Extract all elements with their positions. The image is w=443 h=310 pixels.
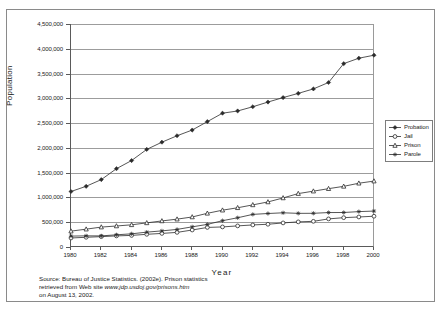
x-tick-label: 1986	[149, 252, 173, 258]
x-tick-mark	[312, 247, 313, 250]
y-tick-label: 500,000	[7, 219, 63, 225]
x-tick-label: 1994	[270, 252, 294, 258]
x-tick-mark	[282, 247, 283, 250]
legend-item-parole[interactable]: Parole	[388, 150, 430, 159]
legend-item-prison[interactable]: Prison	[388, 141, 430, 150]
legend-label: Jail	[404, 133, 413, 140]
x-tick-label: 1980	[58, 252, 82, 258]
source-note: Source: Bureau of Justice Statistics. (2…	[39, 275, 339, 300]
legend-marker-diamond-icon	[388, 123, 402, 132]
plot-area	[70, 24, 374, 247]
legend-marker-asterisk-icon	[388, 150, 402, 159]
y-tick-label: 3,500,000	[7, 71, 63, 77]
x-tick-label: 1988	[179, 252, 203, 258]
y-tick-label: 1,500,000	[7, 170, 63, 176]
x-tick-label: 1982	[88, 252, 112, 258]
chart-legend: ProbationJailPrisonParole	[385, 120, 433, 162]
legend-label: Parole	[404, 151, 421, 158]
source-line-2-prefix: retrieved from Web site	[39, 283, 105, 290]
x-tick-mark	[131, 247, 132, 250]
x-tick-label: 1996	[300, 252, 324, 258]
source-line-3: on August 13, 2002.	[39, 291, 339, 299]
legend-item-probation[interactable]: Probation	[388, 123, 430, 132]
x-tick-mark	[343, 247, 344, 250]
series-probation	[69, 53, 376, 193]
y-tick-label: 1,000,000	[7, 194, 63, 200]
y-tick-label: 3,000,000	[7, 95, 63, 101]
x-tick-label: 1990	[210, 252, 234, 258]
legend-label: Probation	[404, 124, 429, 131]
x-tick-mark	[373, 247, 374, 250]
y-tick-label: 2,000,000	[7, 145, 63, 151]
y-tick-label: 0	[7, 244, 63, 250]
y-tick-label: 4,500,000	[7, 21, 63, 27]
series-parole	[69, 209, 376, 238]
x-tick-mark	[222, 247, 223, 250]
x-tick-label: 1992	[240, 252, 264, 258]
y-tick-label: 4,000,000	[7, 46, 63, 52]
x-tick-mark	[70, 247, 71, 250]
legend-label: Prison	[404, 142, 420, 149]
chart-figure: Population 0500,0001,000,0001,500,0002,0…	[6, 9, 435, 302]
y-tick-label: 2,500,000	[7, 120, 63, 126]
x-tick-mark	[100, 247, 101, 250]
legend-marker-triangle-icon	[388, 141, 402, 150]
x-tick-mark	[191, 247, 192, 250]
source-url: www.jdp.usdoj.gov/prisons.htm	[105, 283, 190, 290]
source-line-2: retrieved from Web site www.jdp.usdoj.go…	[39, 283, 339, 291]
x-tick-label: 1984	[119, 252, 143, 258]
x-tick-label: 1998	[331, 252, 355, 258]
source-line-1: Source: Bureau of Justice Statistics. (2…	[39, 275, 339, 283]
x-tick-label: 2000	[361, 252, 385, 258]
x-tick-mark	[252, 247, 253, 250]
x-tick-mark	[161, 247, 162, 250]
top-artifact-mark	[107, 10, 247, 14]
series-layer	[71, 24, 375, 247]
legend-marker-circle-icon	[388, 132, 402, 141]
legend-item-jail[interactable]: Jail	[388, 132, 430, 141]
